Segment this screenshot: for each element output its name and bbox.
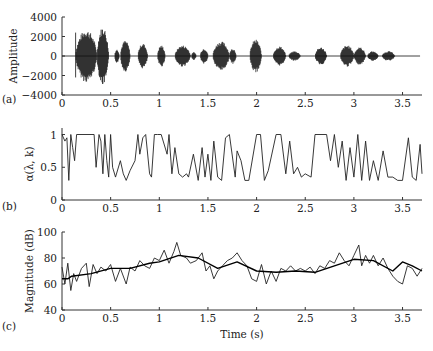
series-line-smoothed-estimate [62,255,422,278]
waveform-segment [273,47,286,66]
y-tick-label: 1 [50,129,57,141]
figure-canvas: 00.511.522.533.5400020000−2000−4000Ampli… [0,0,433,351]
x-tick-label: 0.5 [102,97,119,109]
y-axis-label: α(λ, k) [23,147,35,182]
y-tick-label: 4000 [30,11,57,23]
panel-a: 00.511.522.533.5400020000−2000−4000Ampli… [2,11,422,109]
y-tick-label: 60 [44,278,57,290]
figure: 00.511.522.533.5400020000−2000−4000Ampli… [0,0,433,351]
x-tick-label: 0 [59,312,66,324]
y-tick-label: 100 [37,226,57,238]
x-tick-label: 2.5 [297,312,314,324]
panel-label: (b) [2,200,17,212]
series-line-alpha [62,135,422,181]
waveform-segment [115,50,120,63]
x-tick-label: 2.5 [297,202,314,214]
x-tick-label: 2 [253,202,260,214]
y-tick-label: −2000 [21,70,57,82]
x-tick-label: 1.5 [200,312,217,324]
panel-label: (a) [2,93,16,105]
x-tick-label: 3.5 [394,202,411,214]
x-tick-label: 0.5 [102,202,119,214]
x-tick-label: 1.5 [200,202,217,214]
x-tick-label: 3 [351,97,358,109]
waveform-segment [120,41,129,71]
panel-label: (c) [2,320,16,332]
x-tick-label: 0 [59,97,66,109]
x-tick-label: 2 [253,312,260,324]
y-tick-label: −4000 [21,89,57,101]
waveform-segment [340,46,354,67]
x-tick-label: 0.5 [102,312,119,324]
waveform-segment [97,30,109,84]
waveform-segment [368,51,379,60]
x-tick-label: 3 [351,202,358,214]
x-tick-label: 3.5 [394,312,411,324]
x-tick-label: 1 [156,202,163,214]
x-axis-label: Time (s) [220,328,263,340]
y-tick-label: 0 [50,194,57,206]
y-tick-label: 2000 [30,31,57,43]
waveform-segment [354,48,366,65]
waveform-segment [138,44,148,68]
y-tick-label: 40 [44,304,57,316]
y-tick-label: 0.5 [40,161,57,173]
y-axis-label: Amplitude [7,29,19,85]
x-tick-label: 3 [351,312,358,324]
waveform-segment [229,49,236,63]
waveform-segment [175,46,191,67]
waveform-segment [191,52,196,60]
series-line-noisy-magnitude [62,242,422,290]
waveform-segment [315,48,327,64]
waveform-segment [157,46,165,67]
waveform-segment [76,32,97,82]
y-tick-label: 80 [44,252,57,264]
panel-c: 00.511.522.533.5100806040Magnitude (dB)(… [2,226,422,340]
x-tick-label: 1 [156,97,163,109]
waveform-segment [382,51,395,60]
x-tick-label: 2 [253,97,260,109]
x-tick-label: 0 [59,202,66,214]
x-tick-label: 2.5 [297,97,314,109]
y-axis-label: Magnitude (dB) [23,229,35,313]
waveform-segment [200,49,208,63]
waveform-segment [289,52,301,61]
panel-b: 00.511.522.533.510.50α(λ, k)(b) [2,128,422,214]
x-tick-label: 1.5 [200,97,217,109]
y-tick-label: 0 [50,50,57,62]
waveform-segment [213,42,230,70]
x-tick-label: 3.5 [394,97,411,109]
waveform-segment [250,40,261,72]
x-tick-label: 1 [156,312,163,324]
